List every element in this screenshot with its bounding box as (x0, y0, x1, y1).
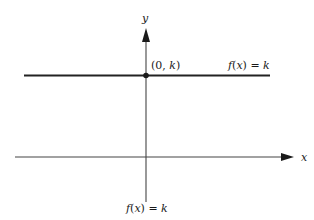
line-label: f(x) = k (227, 59, 270, 72)
y-axis-arrow-icon (142, 28, 150, 42)
x-axis-arrow-icon (281, 153, 294, 161)
graph-svg: x y (0, k) f(x) = k f(x) = k (0, 0, 314, 220)
y-axis-label: y (141, 12, 149, 25)
x-axis-label: x (301, 151, 308, 164)
intercept-point (143, 73, 149, 79)
constant-function-diagram: x y (0, k) f(x) = k f(x) = k (0, 0, 314, 220)
intercept-point-label: (0, k) (151, 59, 180, 72)
figure-caption: f(x) = k (125, 202, 168, 215)
